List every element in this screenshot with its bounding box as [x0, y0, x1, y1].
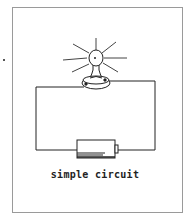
light-bulb-icon: [89, 50, 103, 78]
bulb-holder-icon: [82, 76, 110, 89]
circuit-diagram: [0, 0, 190, 218]
diagram-caption: simple circuit: [0, 169, 190, 180]
battery-icon: [77, 140, 118, 158]
